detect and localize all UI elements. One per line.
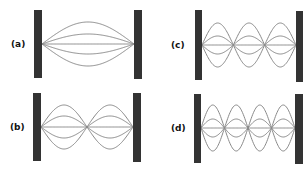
right-wall-a	[134, 10, 142, 79]
panel-d	[194, 94, 303, 164]
panel-c	[195, 10, 303, 82]
panel-label-d: (d)	[171, 123, 186, 133]
panel-label-b: (b)	[10, 122, 25, 132]
standing-waves-diagram	[0, 0, 307, 175]
panel-label-c: (c)	[171, 40, 185, 50]
string-wave-a-4	[42, 44, 134, 66]
panel-label-a: (a)	[11, 39, 25, 49]
right-wall-c	[296, 11, 303, 82]
panel-a	[34, 10, 142, 79]
right-wall-d	[295, 94, 303, 164]
string-wave-a-0	[42, 22, 134, 44]
panel-b	[33, 93, 141, 162]
left-wall-b	[33, 93, 41, 161]
left-wall-c	[195, 10, 202, 80]
left-wall-d	[194, 94, 201, 163]
right-wall-b	[133, 93, 141, 162]
string-wave-a-3	[42, 44, 134, 54]
string-wave-a-1	[42, 34, 134, 44]
left-wall-a	[34, 10, 42, 78]
